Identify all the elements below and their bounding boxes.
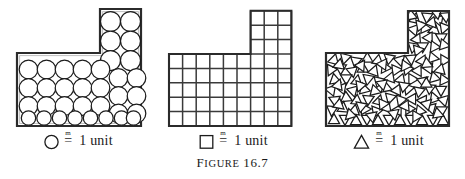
equals-with-m-superscript: m = — [219, 131, 230, 150]
equals-sign: = — [375, 134, 383, 148]
circle-icon — [42, 131, 61, 150]
square-icon — [197, 131, 216, 150]
equals-with-m-superscript: m = — [64, 131, 75, 150]
squares-region — [155, 0, 310, 128]
equals-sign: = — [219, 134, 227, 148]
legend-triangles: m = 1 unit — [310, 128, 465, 152]
caption-word: IGURE — [204, 158, 239, 169]
circle-units — [19, 12, 146, 126]
square-units — [169, 11, 291, 126]
panel-squares: m = 1 unit FIGURE 16.7 — [155, 0, 310, 179]
triangle-icon — [351, 131, 372, 150]
legend-circles: m = 1 unit — [0, 128, 155, 152]
triangles-region — [310, 0, 465, 128]
equals-sign: = — [64, 134, 72, 148]
panel-triangles: m = 1 unit — [310, 0, 465, 179]
legend-label-triangles: 1 unit — [390, 133, 423, 150]
legend-label-circles: 1 unit — [79, 133, 112, 150]
figure-caption: FIGURE 16.7 — [155, 155, 310, 171]
equals-with-m-superscript: m = — [375, 131, 386, 150]
legend-label-squares: 1 unit — [234, 133, 267, 150]
legend-squares: m = 1 unit — [155, 128, 310, 152]
circles-region — [0, 0, 155, 128]
caption-number: 16.7 — [243, 155, 268, 170]
panel-circles: m = 1 unit — [0, 0, 155, 179]
